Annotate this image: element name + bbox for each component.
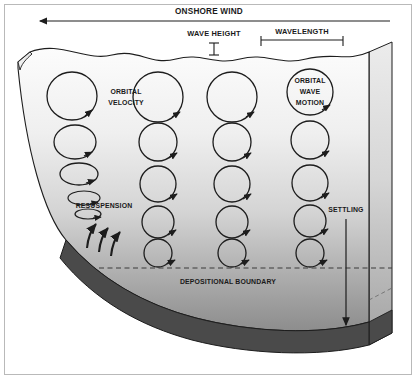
wave-height-label: WAVE HEIGHT xyxy=(187,29,241,38)
settling-label: SETTLING xyxy=(328,206,363,213)
block-side-face xyxy=(369,42,392,345)
orbital-velocity-line-1: ORBITAL xyxy=(110,88,141,95)
wave-sediment-diagram: ONSHORE WIND WAVE HEIGHT WAVELENGTH xyxy=(0,0,418,381)
orbital-wave-motion-line-2: WAVE xyxy=(300,88,321,95)
onshore-wind-label: ONSHORE WIND xyxy=(175,7,243,16)
depositional-boundary-label: DEPOSITIONAL BOUNDARY xyxy=(180,278,276,285)
wavelength-label: WAVELENGTH xyxy=(275,27,329,36)
wavelength-annotation: WAVELENGTH xyxy=(261,27,343,46)
wave-height-annotation: WAVE HEIGHT xyxy=(187,29,241,55)
onshore-wind-annotation: ONSHORE WIND xyxy=(40,7,390,21)
orbital-wave-motion-line-1: ORBITAL xyxy=(294,77,325,84)
resuspension-label: RESUSPENSION xyxy=(76,202,133,209)
diagram-canvas: ONSHORE WIND WAVE HEIGHT WAVELENGTH xyxy=(0,0,418,381)
orbital-wave-motion-line-3: MOTION xyxy=(296,99,324,106)
orbital-velocity-line-2: VELOCITY xyxy=(108,99,144,106)
